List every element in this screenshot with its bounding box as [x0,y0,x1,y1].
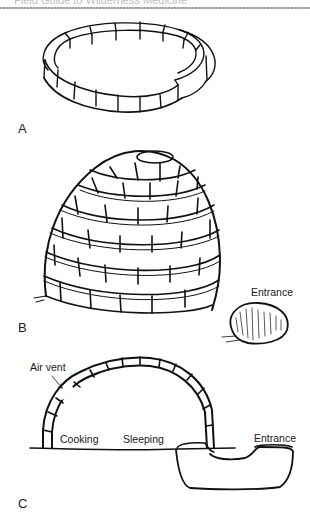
panel-label-b: B [18,320,27,335]
igloo-dome-drawing [34,151,220,313]
callout-sleeping: Sleeping [123,433,164,445]
entrance-block-drawing [222,303,288,344]
callout-air-vent: Air vent [30,361,66,373]
panel-label-c: C [18,496,27,511]
callout-entrance-tunnel: Entrance [254,432,296,444]
callout-cooking: Cooking [60,433,99,445]
panel-label-a: A [18,121,27,136]
callout-entrance-block: Entrance [251,286,293,298]
igloo-cross-section-drawing [30,357,293,489]
block-ring-drawing [43,22,215,112]
